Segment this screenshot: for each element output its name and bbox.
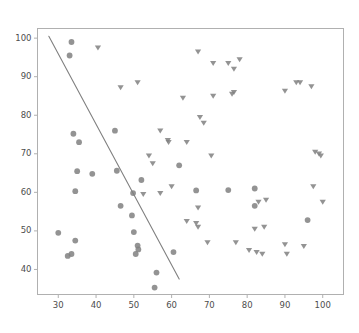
y-tick-label-40: 40: [2, 264, 32, 274]
y-tick-label-80: 80: [2, 110, 32, 120]
circle-markers: [55, 39, 310, 290]
x-tick-label-70: 70: [195, 300, 223, 310]
scatter-plot-figure: 30405060708090100405060708090100: [0, 0, 359, 333]
x-tick-label-50: 50: [120, 300, 148, 310]
x-tick-label-100: 100: [309, 300, 337, 310]
x-tick-label-40: 40: [82, 300, 110, 310]
y-tick-label-90: 90: [2, 71, 32, 81]
x-tick-label-60: 60: [158, 300, 186, 310]
y-tick-label-50: 50: [2, 225, 32, 235]
chart-canvas: [0, 0, 359, 333]
y-tick-label-60: 60: [2, 187, 32, 197]
x-tick-label-80: 80: [233, 300, 261, 310]
x-tick-label-30: 30: [44, 300, 72, 310]
x-tick-label-90: 90: [271, 300, 299, 310]
trend-line: [49, 36, 179, 279]
y-tick-label-70: 70: [2, 148, 32, 158]
triangle-markers: [95, 46, 326, 257]
y-tick-label-100: 100: [2, 33, 32, 43]
